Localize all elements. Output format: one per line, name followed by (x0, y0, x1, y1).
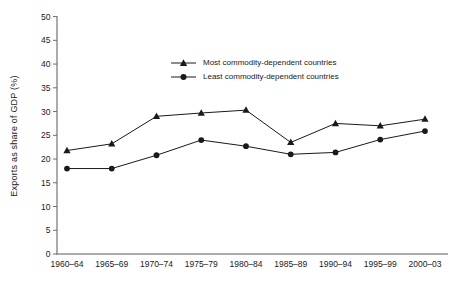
marker-triangle (242, 106, 249, 113)
x-tick-label: 1970–74 (140, 259, 173, 269)
y-tick-label: 30 (41, 107, 51, 117)
line-chart: 051015202530354045501960–641965–691970–7… (0, 0, 455, 286)
marker-circle (333, 149, 339, 155)
y-axis-title: Exports as share of GDP (%) (9, 75, 19, 196)
y-tick-label: 0 (46, 249, 51, 259)
y-tick-label: 20 (41, 154, 51, 164)
y-tick-label: 15 (41, 178, 51, 188)
legend-label-most: Most commodity-dependent countries (203, 58, 336, 67)
y-tick-label: 35 (41, 83, 51, 93)
series-line-least (67, 131, 425, 169)
x-tick-label: 1960–64 (50, 259, 83, 269)
y-tick-label: 40 (41, 59, 51, 69)
marker-circle (198, 137, 204, 143)
x-tick-label: 1975–79 (185, 259, 218, 269)
marker-triangle (332, 120, 339, 127)
marker-circle (154, 152, 160, 158)
x-tick-label: 2000–03 (408, 259, 441, 269)
x-tick-label: 1995–99 (364, 259, 397, 269)
triangle-marker-icon (170, 58, 197, 68)
y-tick-label: 45 (41, 35, 51, 45)
legend-item-most: Most commodity-dependent countries (170, 58, 339, 67)
legend: Most commodity-dependent countries Least… (170, 58, 339, 81)
legend-label-least: Least commodity-dependent countries (203, 72, 339, 81)
y-tick-label: 5 (46, 225, 51, 235)
y-tick-label: 10 (41, 202, 51, 212)
legend-item-least: Least commodity-dependent countries (170, 72, 339, 81)
y-tick-label: 50 (41, 12, 51, 22)
marker-triangle (108, 140, 115, 147)
x-tick-label: 1980–84 (229, 259, 262, 269)
marker-circle (288, 151, 294, 157)
marker-circle (243, 143, 249, 149)
x-tick-label: 1990–94 (319, 259, 352, 269)
circle-marker-icon (170, 72, 197, 82)
y-tick-label: 25 (41, 130, 51, 140)
x-tick-label: 1985–89 (274, 259, 307, 269)
chart-figure: 051015202530354045501960–641965–691970–7… (0, 0, 455, 286)
marker-triangle (421, 115, 428, 122)
marker-circle (422, 128, 428, 134)
marker-circle (109, 166, 115, 172)
marker-circle (64, 166, 70, 172)
marker-circle (377, 137, 383, 143)
x-tick-label: 1965–69 (95, 259, 128, 269)
